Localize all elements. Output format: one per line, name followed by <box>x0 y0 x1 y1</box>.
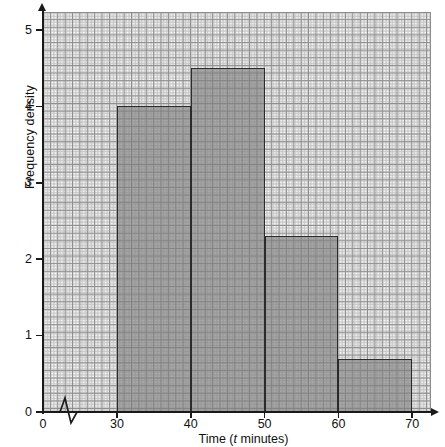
x-axis-title-suffix: minutes) <box>237 432 288 446</box>
x-tick-label: 30 <box>97 418 137 431</box>
x-tick-label: 60 <box>318 418 358 431</box>
histogram-bar-40-50 <box>191 68 265 412</box>
y-tick-mark <box>36 29 42 31</box>
histogram-figure: 012345 03040506070 Frequency density Tim… <box>0 0 445 447</box>
x-axis-title: Time (t minutes) <box>0 432 445 446</box>
y-tick-label: 1 <box>14 329 32 342</box>
x-tick-label: 50 <box>245 418 285 431</box>
y-axis-line <box>42 8 44 414</box>
y-axis-arrow-icon <box>38 3 46 11</box>
y-tick-label: 0 <box>14 406 32 419</box>
y-axis-title: Frequency density <box>23 52 37 222</box>
x-tick-label: 40 <box>171 418 211 431</box>
x-tick-label: 70 <box>392 418 432 431</box>
histogram-bar-60-70 <box>338 359 412 412</box>
y-tick-label: 5 <box>14 24 32 37</box>
y-tick-mark <box>36 335 42 337</box>
histogram-bar-50-60 <box>265 236 339 412</box>
plot-area-grid <box>43 12 431 412</box>
y-tick-mark <box>36 258 42 260</box>
y-tick-label: 2 <box>14 253 32 266</box>
x-axis-arrow-icon <box>431 408 439 416</box>
y-tick-mark <box>36 411 42 413</box>
histogram-bar-30-40 <box>117 106 191 412</box>
x-tick-label: 0 <box>23 418 63 431</box>
x-axis-title-prefix: Time ( <box>199 432 234 446</box>
x-axis-line <box>42 411 434 413</box>
